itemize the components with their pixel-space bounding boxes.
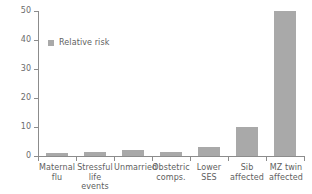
- x-axis-line: [38, 156, 305, 157]
- x-label-line-2: comps.: [152, 173, 190, 183]
- x-tick-6: [266, 157, 267, 161]
- x-label-maternal-flu: Maternal flu: [38, 163, 76, 182]
- x-label-line-1: Obstetric: [152, 163, 190, 173]
- bar-lower-ses: [198, 147, 220, 156]
- legend-swatch-icon: [48, 40, 54, 46]
- x-label-line-2: affected: [228, 173, 266, 183]
- chart-legend: Relative risk: [48, 39, 109, 47]
- y-tick-label-0: 0: [0, 152, 31, 160]
- x-tick-1: [76, 157, 77, 161]
- relative-risk-bar-chart: 50 40 30 20 10 0 Maternal flu Stressful …: [0, 0, 312, 194]
- x-label-line-2: flu: [38, 173, 76, 183]
- x-label-line-1: Lower SES: [190, 163, 228, 182]
- x-label-lower-ses: Lower SES: [190, 163, 228, 182]
- x-tick-4: [190, 157, 191, 161]
- x-tick-3: [152, 157, 153, 161]
- x-label-line-1: Maternal: [38, 163, 76, 173]
- x-label-line-1: Sib: [228, 163, 266, 173]
- bar-obstetric-comps: [160, 152, 182, 157]
- x-tick-0: [38, 157, 39, 161]
- x-label-line-1: Stressful: [76, 163, 114, 173]
- plot-area: [38, 11, 304, 156]
- y-tick-label-40: 40: [0, 36, 31, 44]
- x-label-obstetric-comps: Obstetric comps.: [152, 163, 190, 182]
- bar-maternal-flu: [46, 153, 68, 156]
- x-tick-5: [228, 157, 229, 161]
- x-label-mz-twin-affected: MZ twin affected: [266, 163, 306, 182]
- x-label-line-2: life events: [76, 173, 114, 192]
- x-label-unmarried: Unmarried: [114, 163, 152, 173]
- bar-unmarried: [122, 150, 144, 156]
- y-tick-label-50: 50: [0, 7, 31, 15]
- legend-label-relative-risk: Relative risk: [59, 39, 109, 47]
- bar-stressful-life-events: [84, 152, 106, 157]
- x-tick-7: [304, 157, 305, 161]
- x-label-line-1: MZ twin: [266, 163, 306, 173]
- x-label-line-1: Unmarried: [114, 163, 152, 173]
- x-label-stressful-life-events: Stressful life events: [76, 163, 114, 192]
- x-label-sib-affected: Sib affected: [228, 163, 266, 182]
- y-tick-label-10: 10: [0, 123, 31, 131]
- bar-sib-affected: [236, 127, 258, 156]
- x-label-line-2: affected: [266, 173, 306, 183]
- bar-mz-twin-affected: [274, 11, 296, 156]
- y-tick-label-30: 30: [0, 65, 31, 73]
- y-tick-label-20: 20: [0, 94, 31, 102]
- x-tick-2: [114, 157, 115, 161]
